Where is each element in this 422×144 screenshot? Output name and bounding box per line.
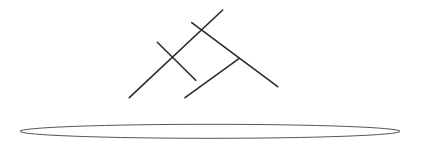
line-segment-1 (129, 10, 222, 98)
line-segment-3 (192, 23, 278, 87)
stick-figure-lines (129, 10, 277, 98)
flat-ellipse (20, 124, 400, 138)
line-segment-2 (157, 42, 195, 80)
diagram-canvas (0, 0, 422, 144)
